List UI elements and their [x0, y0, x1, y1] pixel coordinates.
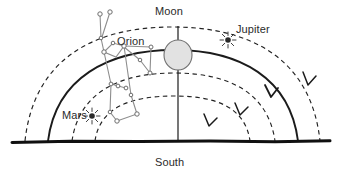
orion-star-shoulder-left — [102, 50, 106, 54]
mars-label: Mars — [62, 110, 87, 121]
jupiter-label: Jupiter — [236, 24, 270, 35]
jupiter-symbol — [220, 32, 236, 48]
orion-star-foot-right — [135, 112, 139, 116]
orion-star-belt-2 — [116, 84, 120, 88]
arrow-inner-arc — [204, 114, 217, 126]
orion-star-belt-3 — [124, 86, 128, 90]
orion-star-hand-right-lower — [148, 71, 152, 75]
arrow-outer-arc — [303, 72, 316, 85]
middle-dashed-arc — [72, 73, 275, 141]
orion-leg-left-line — [110, 84, 117, 121]
orion-torso-left-line — [104, 52, 111, 84]
orion-star-hand-right-upper — [149, 45, 153, 49]
orion-star-foot-left — [115, 119, 119, 123]
orion-star-elbow-right — [138, 58, 142, 62]
orion-star-hip-right — [129, 93, 133, 97]
orion-label: Orion — [117, 36, 144, 47]
orion-club-line — [102, 12, 110, 37]
sky-chart-canvas — [0, 0, 342, 179]
moon-label: Moon — [155, 6, 183, 17]
arrow-middle-arc — [235, 103, 248, 115]
inner-dashed-arc — [95, 96, 250, 141]
orion-star-club-top-b — [108, 10, 112, 14]
orion-star-knee-left — [108, 110, 112, 114]
orion-star-head — [111, 41, 115, 45]
orion-star-club-top-a — [98, 12, 102, 16]
jupiter-disc — [225, 37, 231, 43]
horizon-line — [12, 141, 330, 143]
orion-star-shoulder-upper — [99, 36, 103, 40]
orion-constellation — [98, 10, 153, 123]
mars-disc — [89, 113, 95, 119]
south-label: South — [155, 157, 184, 168]
orion-leg-right-line — [117, 95, 137, 121]
moon-disc — [164, 40, 192, 70]
orion-star-belt-1 — [109, 82, 113, 86]
sky-chart-diagram: Moon Jupiter Orion Mars South — [0, 0, 342, 179]
